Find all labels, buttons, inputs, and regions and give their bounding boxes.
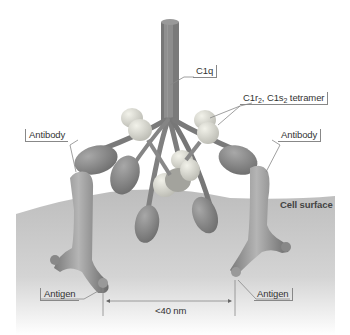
- label-antibody-right: Antibody: [278, 129, 321, 142]
- label-c1q: C1q: [193, 65, 217, 78]
- tetramer-prefix: C1r: [243, 92, 258, 103]
- tetramer-mid: , C1s: [262, 92, 284, 103]
- label-distance: <40 nm: [155, 305, 186, 317]
- label-c1q-text: C1q: [196, 65, 213, 76]
- antigen-left-blob: [98, 278, 108, 288]
- c1-complex-illustration: [0, 0, 350, 335]
- label-antigen-right: Antigen: [254, 288, 293, 301]
- label-cell-surface: Cell surface: [280, 199, 333, 211]
- label-antigen-left: Antigen: [40, 288, 79, 301]
- antigen-right-blob: [231, 267, 241, 277]
- diagram-stage: C1q C1r2, C1s2 tetramer Antibody Antibod…: [0, 0, 350, 335]
- antigen-right-text: Antigen: [257, 288, 289, 299]
- antigen-left-text: Antigen: [44, 288, 76, 299]
- antibody-left-text: Antibody: [29, 129, 65, 140]
- tetramer-suffix: tetramer: [287, 92, 324, 103]
- label-antibody-left: Antibody: [25, 129, 68, 142]
- antibody-right-text: Antibody: [281, 129, 317, 140]
- c1q-stalk: [161, 19, 179, 122]
- label-tetramer: C1r2, C1s2 tetramer: [240, 92, 328, 105]
